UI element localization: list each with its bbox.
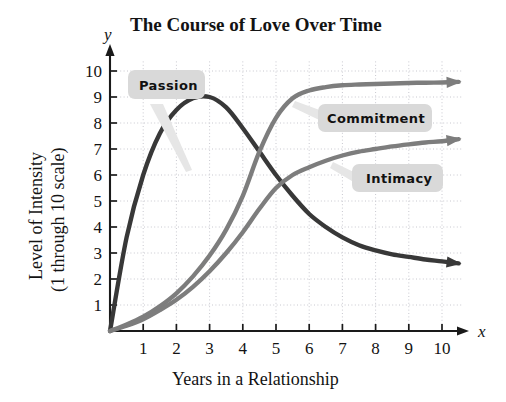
y-tick-label: 2: [94, 270, 103, 289]
callout-commitment[interactable]: Commitment: [318, 104, 432, 132]
y-axis-title-line1: Level of Intensity: [26, 152, 46, 280]
chart-figure: 12345678910 12345678910 Passion Commitme…: [0, 0, 506, 402]
y-tick-label: 5: [94, 192, 103, 211]
x-axis-title: Years in a Relationship: [172, 369, 339, 389]
callout-passion[interactable]: Passion: [128, 70, 205, 99]
y-tick-label: 3: [94, 244, 103, 263]
x-tick-label: 9: [405, 339, 414, 358]
y-tick-label: 6: [94, 166, 103, 185]
y-axis-title-line2: (1 through 10 scale): [48, 148, 69, 292]
y-tick-label: 4: [94, 218, 103, 237]
y-tick-label: 10: [85, 62, 102, 81]
commitment-callout-label: Commitment: [327, 111, 425, 126]
x-tick-label: 4: [239, 339, 248, 358]
callout-intimacy[interactable]: Intimacy: [352, 164, 443, 192]
chart-title: The Course of Love Over Time: [130, 14, 382, 35]
intimacy-callout-label: Intimacy: [366, 171, 433, 186]
x-tick-label: 10: [434, 339, 451, 358]
y-tick-label: 1: [94, 296, 103, 315]
x-tick-label: 8: [371, 339, 380, 358]
y-tick-label: 8: [94, 114, 103, 133]
x-tick-label: 3: [205, 339, 214, 358]
y-axis-letter: y: [102, 25, 112, 44]
x-tick-label: 5: [272, 339, 281, 358]
x-axis-letter: x: [477, 322, 486, 341]
x-tick-label: 6: [305, 339, 314, 358]
y-tick-label: 9: [94, 88, 103, 107]
love-over-time-chart: 12345678910 12345678910 Passion Commitme…: [0, 0, 506, 402]
x-tick-label: 7: [338, 339, 347, 358]
x-tick-label: 2: [172, 339, 181, 358]
y-tick-label: 7: [94, 140, 103, 159]
x-tick-label: 1: [139, 339, 148, 358]
passion-callout-label: Passion: [139, 78, 198, 93]
